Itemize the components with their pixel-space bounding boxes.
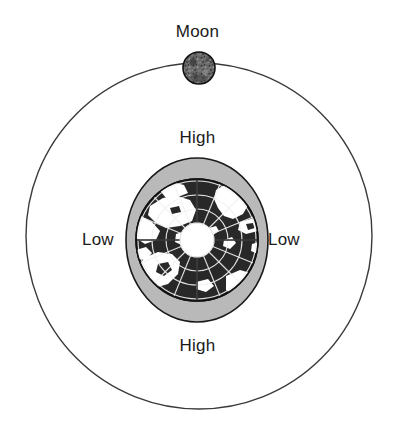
low-tide-label-right: Low (268, 230, 300, 250)
high-tide-label-top: High (0, 128, 395, 148)
diagram-figure (0, 0, 395, 442)
tidal-diagram-canvas: Moon High High Low Low (0, 0, 395, 442)
moon-label: Moon (0, 22, 395, 42)
high-tide-label-bottom: High (0, 336, 395, 356)
low-tide-label-left: Low (82, 230, 114, 250)
